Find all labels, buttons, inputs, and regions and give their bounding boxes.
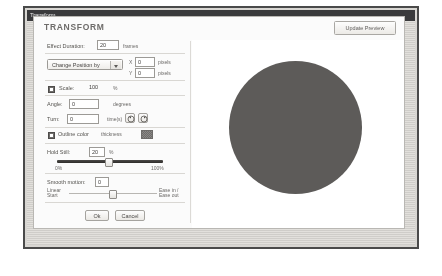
divider-6 xyxy=(45,173,185,174)
change-position-select[interactable]: Change Position by xyxy=(47,59,123,70)
turn-unit: time(s) xyxy=(107,116,122,122)
hold-still-label: Hold Still: xyxy=(47,149,70,155)
preview-pane[interactable] xyxy=(192,40,404,228)
rotate-counter-clockwise-icon[interactable] xyxy=(125,113,135,123)
chevron-down-icon xyxy=(110,61,121,70)
scale-unit: % xyxy=(113,85,117,91)
outline-label: Outline color xyxy=(58,131,89,137)
effect-duration-label: Effect Duration: xyxy=(47,43,85,49)
scale-checkbox[interactable] xyxy=(48,86,55,93)
hold-still-unit: % xyxy=(109,149,113,155)
turn-input[interactable]: 0 xyxy=(67,114,99,124)
column-divider xyxy=(190,41,191,223)
rotate-clockwise-icon[interactable] xyxy=(138,113,148,123)
divider-1 xyxy=(45,53,185,54)
divider-4 xyxy=(45,127,185,128)
outline-color-swatch[interactable] xyxy=(141,130,153,139)
position-y-prefix: Y xyxy=(129,70,132,76)
smooth-motion-max-label: Ease in / Ease out xyxy=(159,188,185,199)
scale-label: Scale: xyxy=(59,85,74,91)
position-y-unit: pixels xyxy=(158,70,171,76)
effect-duration-unit: frames xyxy=(123,43,138,49)
change-position-label: Change Position by xyxy=(52,62,100,68)
ok-button[interactable]: Ok xyxy=(85,210,109,221)
smooth-motion-slider-thumb[interactable] xyxy=(109,190,117,199)
hold-still-slider-thumb[interactable] xyxy=(105,158,113,167)
position-x-unit: pixels xyxy=(158,59,171,65)
divider-2 xyxy=(45,80,185,81)
divider-7 xyxy=(45,202,185,203)
hold-still-max-label: 100% xyxy=(151,165,164,171)
effect-duration-input[interactable]: 20 xyxy=(97,40,119,50)
divider-5 xyxy=(45,143,185,144)
position-x-input[interactable]: 0 xyxy=(135,57,155,67)
smooth-motion-input[interactable]: 0 xyxy=(95,177,109,187)
preview-shape-circle xyxy=(229,61,362,194)
transform-dialog: TRANSFORM Update Preview Effect Duration… xyxy=(33,16,405,229)
angle-label: Angle: xyxy=(47,101,63,107)
dialog-header: TRANSFORM Update Preview xyxy=(34,17,404,39)
position-x-prefix: X xyxy=(129,59,132,65)
divider-3 xyxy=(45,95,185,96)
cancel-button[interactable]: Cancel xyxy=(115,210,145,221)
update-preview-button[interactable]: Update Preview xyxy=(334,21,396,35)
position-y-input[interactable]: 0 xyxy=(135,68,155,78)
outline-checkbox[interactable] xyxy=(48,132,55,139)
smooth-motion-label: Smooth motion: xyxy=(47,179,86,185)
scale-input[interactable]: 100 xyxy=(87,83,109,93)
controls-panel: Effect Duration: 20 frames Change Positi… xyxy=(43,39,189,225)
angle-unit: degrees xyxy=(113,101,131,107)
transform-window: Transform TRANSFORM Update Preview Effec… xyxy=(23,6,419,249)
turn-label: Turn: xyxy=(47,116,60,122)
angle-input[interactable]: 0 xyxy=(69,99,99,109)
outline-thickness-label: thickness xyxy=(101,131,122,137)
hold-still-input[interactable]: 20 xyxy=(89,147,105,157)
page-title: TRANSFORM xyxy=(44,22,105,32)
smooth-motion-min-label: Linear Start xyxy=(47,188,69,199)
hold-still-min-label: 0% xyxy=(55,165,62,171)
